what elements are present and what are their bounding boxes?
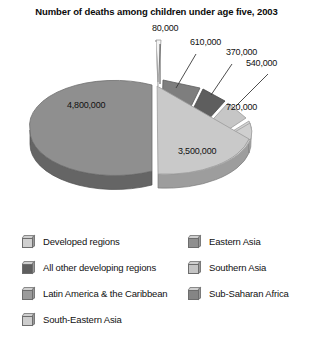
legend-label: Sub-Saharan Africa xyxy=(209,288,289,299)
legend-item-south-eastern-asia[interactable]: South-Eastern Asia xyxy=(22,306,168,332)
legend-swatch-icon xyxy=(188,235,201,248)
data-label-610000: 610,000 xyxy=(190,37,221,47)
pie-chart-svg xyxy=(0,22,313,212)
page-title: Number of deaths among children under ag… xyxy=(0,6,313,17)
legend-item-all-other-developing-regions[interactable]: All other developing regions xyxy=(22,254,168,280)
data-label-4800000: 4,800,000 xyxy=(67,100,105,110)
legend-swatch-icon xyxy=(22,287,35,300)
legend-swatch-icon xyxy=(22,313,35,326)
legend-label: Latin America & the Caribbean xyxy=(43,288,168,299)
legend-column-right: Eastern Asia Southern Asia Sub-Saharan A… xyxy=(188,228,289,306)
legend-item-eastern-asia[interactable]: Eastern Asia xyxy=(188,228,289,254)
legend-item-southern-asia[interactable]: Southern Asia xyxy=(188,254,289,280)
legend-swatch-icon xyxy=(188,287,201,300)
legend: Developed regions All other developing r… xyxy=(0,228,313,337)
data-label-720000: 720,000 xyxy=(226,102,257,112)
legend-item-latin-america-caribbean[interactable]: Latin America & the Caribbean xyxy=(22,280,168,306)
legend-item-sub-saharan-africa[interactable]: Sub-Saharan Africa xyxy=(188,280,289,306)
data-label-370000: 370,000 xyxy=(226,47,257,57)
data-label-540000: 540,000 xyxy=(246,58,277,68)
legend-item-developed-regions[interactable]: Developed regions xyxy=(22,228,168,254)
leader-line-370000 xyxy=(211,64,232,95)
legend-column-left: Developed regions All other developing r… xyxy=(22,228,168,332)
legend-swatch-icon xyxy=(188,261,201,274)
legend-label: All other developing regions xyxy=(43,262,156,273)
legend-label: Eastern Asia xyxy=(209,236,261,247)
legend-label: Southern Asia xyxy=(209,262,266,273)
pie-chart: 80,000 610,000 370,000 540,000 720,000 4… xyxy=(0,22,313,212)
leader-line-610000 xyxy=(176,54,196,88)
data-label-80000: 80,000 xyxy=(152,23,178,33)
data-label-3500000: 3,500,000 xyxy=(178,146,216,156)
legend-label: Developed regions xyxy=(43,236,120,247)
legend-swatch-icon xyxy=(22,235,35,248)
legend-label: South-Eastern Asia xyxy=(43,314,122,325)
legend-swatch-icon xyxy=(22,261,35,274)
